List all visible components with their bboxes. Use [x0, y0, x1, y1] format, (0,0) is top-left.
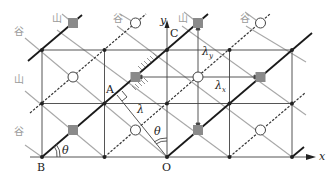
grid-lines: [30, 26, 306, 157]
lambda-label: λ: [137, 104, 144, 115]
lambda-x-symbol: λ: [215, 79, 222, 92]
point-c-label: C: [170, 28, 178, 39]
x-axis-label: x: [319, 151, 325, 162]
theta-right-label: θ: [154, 126, 161, 137]
point-a-label: A: [106, 84, 114, 95]
point-b-label: B: [37, 162, 45, 173]
fold-label-left-top: 谷: [14, 27, 24, 37]
fold-label-top-0: 山: [52, 14, 62, 24]
fold-label-top-1: 谷: [113, 14, 123, 24]
lambda-y-subscript: y: [209, 52, 213, 60]
lambda-x-label: λx: [215, 80, 226, 94]
fold-label-left-bottom: 谷: [14, 127, 24, 137]
lambda-x-subscript: x: [222, 86, 226, 94]
theta-arcs: [54, 138, 167, 157]
y-axis-label: y: [160, 15, 166, 26]
theta-left-label: θ: [62, 145, 69, 156]
origin-label: O: [162, 162, 171, 173]
lattice-diagram: [0, 0, 332, 177]
lambda-y-symbol: λ: [202, 45, 209, 58]
fold-label-left-mid: 山: [14, 75, 24, 85]
fold-label-top-2: 山: [178, 14, 188, 24]
fold-label-top-3: 谷: [240, 14, 250, 24]
lambda-y-label: λy: [202, 46, 213, 60]
hatching: [132, 53, 157, 90]
